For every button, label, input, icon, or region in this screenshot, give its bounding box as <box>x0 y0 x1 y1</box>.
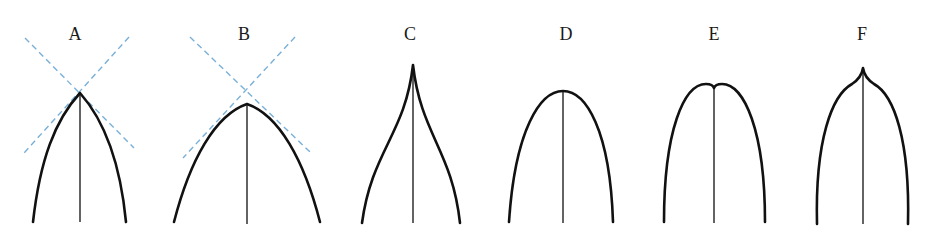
panel-b: B <box>174 24 320 224</box>
panel-label: F <box>857 24 867 44</box>
panel-f: F <box>817 24 908 224</box>
panel-label: D <box>560 24 573 44</box>
panel-label: A <box>69 24 82 44</box>
leaf-apex-diagram: ABCDEF <box>0 0 930 240</box>
panel-label: B <box>238 24 250 44</box>
leaf-apex-figure: ABCDEF <box>0 0 930 240</box>
leaf-apex-outline <box>509 91 613 222</box>
panel-e: E <box>664 24 765 223</box>
leaf-apex-outline <box>362 65 460 223</box>
panel-label: C <box>404 24 416 44</box>
tangent-guide-line <box>183 37 295 158</box>
panel-d: D <box>509 24 613 223</box>
tangent-guide-line <box>190 37 310 152</box>
panel-a: A <box>24 24 134 222</box>
panel-label: E <box>709 24 720 44</box>
panel-c: C <box>362 24 460 223</box>
